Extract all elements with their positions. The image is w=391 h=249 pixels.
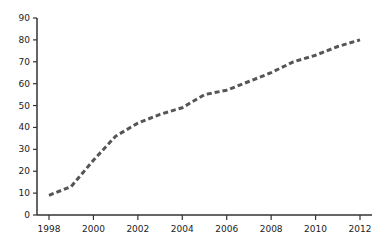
- x-tick-label: 2006: [215, 224, 238, 234]
- x-tick-label: 1998: [38, 224, 61, 234]
- data-line: [49, 40, 360, 195]
- x-tick-label: 2008: [260, 224, 283, 234]
- x-tick-label: 2002: [126, 224, 149, 234]
- y-tick-label: 80: [19, 35, 31, 45]
- y-tick-label: 50: [19, 101, 31, 111]
- y-axis: 0102030405060708090: [19, 13, 37, 220]
- y-tick-label: 0: [24, 210, 30, 220]
- x-tick-label: 2010: [304, 224, 327, 234]
- plot-area: [49, 40, 360, 195]
- y-tick-label: 30: [19, 144, 31, 154]
- y-tick-label: 10: [19, 188, 31, 198]
- x-tick-label: 2004: [171, 224, 194, 234]
- x-tick-label: 2012: [349, 224, 372, 234]
- x-axis: 19982000200220042006200820102012: [37, 215, 372, 234]
- y-tick-label: 90: [19, 13, 31, 23]
- y-tick-label: 70: [19, 57, 31, 67]
- line-chart: 0102030405060708090 19982000200220042006…: [0, 0, 391, 249]
- y-tick-label: 60: [19, 79, 31, 89]
- y-tick-label: 40: [19, 122, 31, 132]
- y-tick-label: 20: [19, 166, 31, 176]
- x-tick-label: 2000: [82, 224, 105, 234]
